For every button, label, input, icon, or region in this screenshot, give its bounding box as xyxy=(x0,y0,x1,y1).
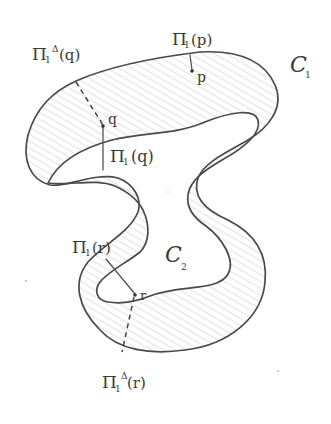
svg-text:Δ: Δ xyxy=(52,44,59,54)
svg-text:1: 1 xyxy=(305,70,311,80)
svg-text:1: 1 xyxy=(45,55,51,65)
label-q: q xyxy=(108,111,117,127)
svg-text:1: 1 xyxy=(184,40,190,50)
label-r: r xyxy=(140,288,147,303)
point-q xyxy=(101,124,105,128)
label-pi-p: Π 1 (p) xyxy=(172,29,212,50)
point-p xyxy=(190,69,194,73)
svg-text:(r): (r) xyxy=(127,374,146,392)
label-pi-r: Π 1 (r) xyxy=(72,237,111,258)
diagram-canvas: Π 1 (p) p Π 1 Δ (q) q Π 1 (q) C 1 Π 1 (r… xyxy=(0,0,331,424)
svg-text:(q): (q) xyxy=(59,46,80,64)
svg-text:1: 1 xyxy=(123,157,129,167)
label-c2: C 2 xyxy=(165,242,187,272)
speck xyxy=(167,191,168,192)
hatched-region xyxy=(26,52,278,352)
svg-text:2: 2 xyxy=(181,262,187,272)
svg-text:C: C xyxy=(165,242,182,267)
label-c1: C 1 xyxy=(290,52,311,80)
label-pi-delta-r: Π 1 Δ (r) xyxy=(102,371,146,394)
point-r xyxy=(133,293,137,297)
svg-text:(r): (r) xyxy=(92,239,111,257)
svg-text:1: 1 xyxy=(85,248,91,258)
label-p: p xyxy=(197,69,206,85)
svg-text:(q): (q) xyxy=(131,147,154,166)
svg-text:1: 1 xyxy=(115,384,121,394)
label-pi-q: Π 1 (q) xyxy=(110,146,154,167)
speck xyxy=(25,280,27,282)
label-pi-delta-q: Π 1 Δ (q) xyxy=(32,44,80,65)
svg-text:(p): (p) xyxy=(191,31,212,49)
speck xyxy=(277,370,279,372)
